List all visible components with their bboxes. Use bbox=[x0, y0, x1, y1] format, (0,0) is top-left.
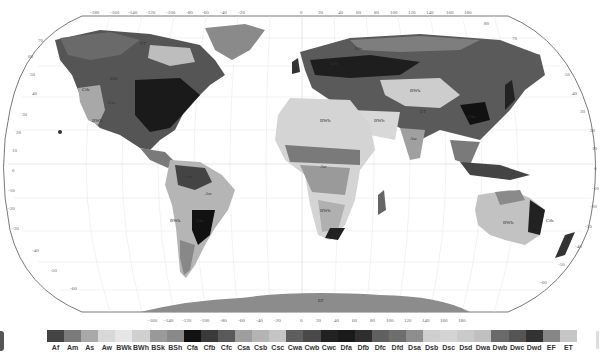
legend-swatch-csb bbox=[252, 330, 269, 342]
legend-label-bwh: BWh bbox=[132, 344, 149, 351]
svg-text:30: 30 bbox=[22, 112, 28, 117]
svg-text:140: 140 bbox=[426, 10, 434, 15]
svg-text:-20: -20 bbox=[8, 206, 15, 211]
legend-label-cwc: Cwc bbox=[321, 344, 338, 351]
svg-text:-100: -100 bbox=[166, 10, 176, 15]
legend-swatches bbox=[47, 330, 577, 342]
lon-ticks-bottom: -160 -140 -120 -100 -80 -60 -40 -20 0 20… bbox=[148, 318, 466, 323]
svg-text:BWh: BWh bbox=[320, 118, 331, 123]
svg-text:70: 70 bbox=[38, 38, 44, 43]
svg-text:40: 40 bbox=[334, 318, 340, 323]
legend-label-dsc: Dsc bbox=[440, 344, 457, 351]
legend-swatch-am bbox=[64, 330, 81, 342]
legend-label-dwa: Dwa bbox=[474, 344, 491, 351]
svg-text:0: 0 bbox=[594, 166, 597, 171]
svg-text:ET: ET bbox=[140, 41, 146, 46]
left-edge-mark bbox=[0, 331, 4, 351]
legend-swatch-dfb bbox=[355, 330, 372, 342]
svg-text:160: 160 bbox=[446, 10, 454, 15]
svg-text:80: 80 bbox=[370, 318, 376, 323]
legend-label-cwa: Cwa bbox=[286, 344, 303, 351]
svg-text:40: 40 bbox=[572, 91, 578, 96]
legend-swatch-dwc bbox=[509, 330, 526, 342]
svg-text:-120: -120 bbox=[182, 318, 192, 323]
svg-text:180: 180 bbox=[458, 318, 466, 323]
svg-text:-40: -40 bbox=[575, 244, 582, 249]
svg-text:30: 30 bbox=[580, 109, 586, 114]
svg-text:-60: -60 bbox=[238, 318, 245, 323]
svg-text:100: 100 bbox=[390, 10, 398, 15]
svg-text:10: 10 bbox=[592, 146, 598, 151]
legend-swatch-dsd bbox=[457, 330, 474, 342]
svg-text:BWk: BWk bbox=[92, 118, 103, 123]
svg-text:180: 180 bbox=[464, 10, 472, 15]
svg-text:-140: -140 bbox=[128, 10, 138, 15]
svg-text:Cfb: Cfb bbox=[546, 218, 554, 223]
svg-text:60: 60 bbox=[352, 318, 358, 323]
legend-label-cfa: Cfa bbox=[184, 344, 201, 351]
legend-label-dwb: Dwb bbox=[491, 344, 508, 351]
legend-swatch-cfb bbox=[201, 330, 218, 342]
svg-text:80: 80 bbox=[484, 21, 490, 26]
legend-label-dwc: Dwc bbox=[509, 344, 526, 351]
svg-text:EF: EF bbox=[318, 298, 324, 303]
climate-legend: AfAmAsAwBWkBWhBSkBShCfaCfbCfcCsaCsbCscCw… bbox=[47, 330, 577, 354]
legend-swatch-ef bbox=[543, 330, 560, 342]
legend-label-dfa: Dfa bbox=[338, 344, 355, 351]
svg-text:-20: -20 bbox=[274, 318, 281, 323]
svg-text:BWk: BWk bbox=[410, 88, 421, 93]
svg-text:160: 160 bbox=[440, 318, 448, 323]
legend-label-am: Am bbox=[64, 344, 81, 351]
legend-label-csc: Csc bbox=[269, 344, 286, 351]
svg-text:20: 20 bbox=[590, 128, 596, 133]
legend-label-dsb: Dsb bbox=[423, 344, 440, 351]
svg-text:140: 140 bbox=[422, 318, 430, 323]
svg-text:20: 20 bbox=[16, 130, 22, 135]
legend-swatch-csc bbox=[269, 330, 286, 342]
legend-label-ef: EF bbox=[543, 344, 560, 351]
legend-label-et: ET bbox=[560, 344, 577, 351]
svg-text:50: 50 bbox=[565, 72, 571, 77]
svg-text:-50: -50 bbox=[558, 262, 565, 267]
legend-swatch-cfa bbox=[184, 330, 201, 342]
svg-text:BWh: BWh bbox=[374, 118, 385, 123]
legend-label-cwb: Cwb bbox=[303, 344, 320, 351]
legend-label-bsk: BSk bbox=[150, 344, 167, 351]
legend-swatch-dwa bbox=[474, 330, 491, 342]
svg-text:-30: -30 bbox=[12, 226, 19, 231]
legend-label-dsa: Dsa bbox=[406, 344, 423, 351]
svg-text:-80: -80 bbox=[186, 10, 193, 15]
legend-swatch-dfa bbox=[338, 330, 355, 342]
legend-swatch-as bbox=[81, 330, 98, 342]
svg-text:100: 100 bbox=[386, 318, 394, 323]
svg-text:-60: -60 bbox=[540, 280, 547, 285]
svg-text:40: 40 bbox=[338, 10, 344, 15]
legend-swatch-dwb bbox=[491, 330, 508, 342]
svg-text:-10: -10 bbox=[592, 186, 599, 191]
svg-text:Dfb: Dfb bbox=[330, 61, 338, 66]
svg-text:Aw: Aw bbox=[410, 136, 417, 141]
legend-swatch-bwh bbox=[132, 330, 149, 342]
legend-label-bsh: BSh bbox=[167, 344, 184, 351]
svg-text:20: 20 bbox=[318, 10, 324, 15]
svg-text:70: 70 bbox=[512, 36, 518, 41]
world-climate-map: -180 -160 -140 -120 -100 -80 -60 -40 -20… bbox=[0, 0, 605, 325]
legend-swatch-cwa bbox=[286, 330, 303, 342]
legend-label-csb: Csb bbox=[252, 344, 269, 351]
svg-text:ET: ET bbox=[420, 109, 426, 114]
legend-swatch-cwb bbox=[303, 330, 320, 342]
svg-text:Cfb: Cfb bbox=[82, 87, 90, 92]
svg-text:-40: -40 bbox=[220, 10, 227, 15]
svg-text:80: 80 bbox=[374, 10, 380, 15]
legend-label-dfc: Dfc bbox=[372, 344, 389, 351]
svg-text:-20: -20 bbox=[590, 204, 597, 209]
right-edge-mark bbox=[596, 331, 599, 349]
svg-text:-160: -160 bbox=[110, 10, 120, 15]
legend-label-dfb: Dfb bbox=[355, 344, 372, 351]
svg-text:60: 60 bbox=[535, 53, 541, 58]
legend-label-cfc: Cfc bbox=[218, 344, 235, 351]
legend-label-dwd: Dwd bbox=[526, 344, 543, 351]
legend-swatch-csa bbox=[235, 330, 252, 342]
svg-text:40: 40 bbox=[32, 91, 38, 96]
svg-text:-20: -20 bbox=[238, 10, 245, 15]
